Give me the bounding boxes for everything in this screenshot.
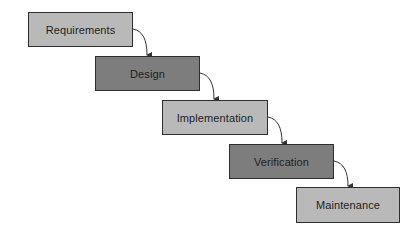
stage-verification: Verification bbox=[229, 144, 334, 179]
arrow-verification-to-maintenance bbox=[334, 161, 348, 186]
stage-label: Requirements bbox=[46, 24, 116, 36]
stage-label: Verification bbox=[254, 156, 309, 168]
stage-label: Design bbox=[130, 68, 165, 80]
stage-maintenance: Maintenance bbox=[296, 187, 400, 223]
arrow-implementation-to-verification bbox=[268, 117, 282, 143]
waterfall-diagram: Requirements Design Implementation Verif… bbox=[0, 0, 417, 237]
stage-label: Maintenance bbox=[316, 199, 380, 211]
arrow-requirements-to-design bbox=[133, 29, 147, 55]
stage-requirements: Requirements bbox=[28, 12, 133, 47]
stage-label: Implementation bbox=[177, 112, 254, 124]
stage-implementation: Implementation bbox=[162, 100, 268, 135]
arrow-design-to-implementation bbox=[200, 73, 214, 99]
stage-design: Design bbox=[95, 56, 200, 91]
